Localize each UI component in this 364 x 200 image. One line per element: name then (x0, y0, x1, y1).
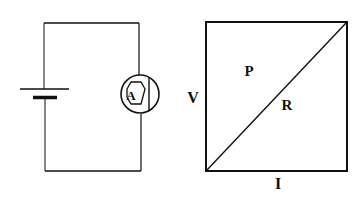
x-axis-label: I (275, 175, 281, 192)
vi-graph (206, 22, 347, 171)
diagonal-line (207, 23, 346, 170)
line-label-r: R (282, 97, 293, 113)
region-label-p: P (244, 63, 253, 79)
battery-icon (20, 89, 69, 98)
y-axis-label: V (187, 89, 199, 106)
figure: A V I P R (0, 0, 364, 200)
circuit-diagram (20, 23, 159, 171)
ammeter-label: A (126, 88, 136, 103)
